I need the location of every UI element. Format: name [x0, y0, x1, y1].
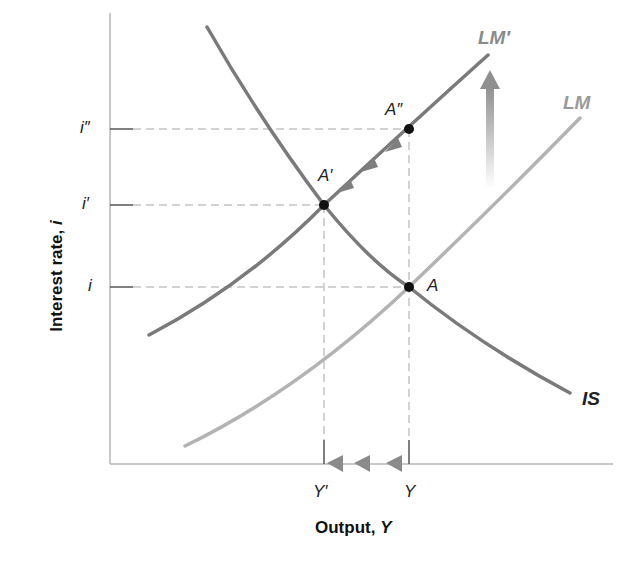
adjustment-arrows-lm-prime	[337, 138, 402, 193]
y-axis-title: Interest rate, i	[47, 220, 67, 332]
x-axis-title-var: Y	[380, 518, 391, 537]
tick-label-y-prime: Y′	[313, 482, 328, 502]
arrow-left-icon	[327, 455, 343, 472]
x-axis-title-text: Output,	[315, 518, 380, 537]
guide-lines	[133, 129, 409, 440]
label-is: IS	[582, 388, 600, 410]
x-axis-title: Output, Y	[315, 518, 392, 538]
arrow-left-icon	[386, 455, 402, 472]
is-curve	[207, 27, 570, 393]
tick-label-i: i	[88, 276, 92, 296]
arrow-left-down-icon	[361, 158, 378, 172]
adjustment-arrows-output	[327, 455, 402, 472]
point-a-prime	[319, 200, 329, 210]
label-point-a-double-prime: A″	[385, 100, 402, 120]
tick-label-y: Y	[404, 482, 415, 502]
tick-label-i-prime: i′	[82, 194, 89, 214]
y-axis-title-text: Interest rate,	[47, 225, 66, 332]
tick-label-i-double-prime: i″	[80, 118, 90, 138]
axes	[110, 13, 613, 464]
arrow-left-icon	[354, 455, 370, 472]
lm-shift-arrow-icon	[480, 70, 500, 188]
tick-marks	[110, 129, 409, 464]
point-a-double-prime	[404, 124, 414, 134]
label-point-a: A	[427, 276, 438, 296]
label-lm: LM	[563, 92, 590, 114]
point-a	[404, 282, 414, 292]
equilibrium-points	[319, 124, 414, 292]
label-point-a-prime: A′	[318, 166, 333, 186]
lm-curve	[185, 118, 580, 446]
label-lm-prime: LM′	[478, 27, 510, 49]
y-axis-title-var: i	[47, 220, 66, 225]
